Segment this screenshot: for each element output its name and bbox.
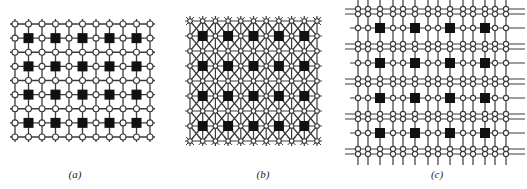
- node-circle: [460, 46, 465, 51]
- node-circle: [355, 60, 360, 65]
- node-circle: [470, 60, 475, 65]
- node-circle: [66, 21, 72, 27]
- node-circle: [425, 46, 430, 51]
- node-circle: [147, 134, 153, 140]
- node-circle: [435, 146, 440, 151]
- node-circle: [365, 46, 370, 51]
- mesh-diagram-b: [170, 0, 340, 189]
- node-circle: [213, 49, 218, 54]
- processing-element: [445, 23, 455, 33]
- node-circle: [470, 6, 475, 11]
- node-circle: [435, 95, 440, 100]
- node-circle: [425, 116, 430, 121]
- node-circle: [188, 94, 193, 99]
- node-circle: [93, 63, 99, 69]
- node-circle: [365, 146, 370, 151]
- processing-element: [299, 121, 309, 131]
- node-circle: [315, 34, 320, 39]
- node-circle: [264, 19, 269, 24]
- node-circle: [315, 49, 320, 54]
- node-circle: [470, 11, 475, 16]
- processing-element: [223, 31, 233, 41]
- node-circle: [188, 49, 193, 54]
- node-circle: [435, 81, 440, 86]
- node-circle: [251, 139, 256, 144]
- node-circle: [120, 120, 126, 126]
- node-circle: [264, 124, 269, 129]
- node-circle: [460, 6, 465, 11]
- processing-element: [375, 58, 385, 68]
- node-circle: [188, 79, 193, 84]
- node-circle: [39, 120, 45, 126]
- node-circle: [213, 34, 218, 39]
- node-circle: [213, 124, 218, 129]
- node-circle: [435, 6, 440, 11]
- node-circle: [12, 21, 18, 27]
- processing-element: [299, 61, 309, 71]
- node-circle: [200, 49, 205, 54]
- node-circle: [447, 111, 452, 116]
- node-circle: [239, 49, 244, 54]
- node-circle: [239, 139, 244, 144]
- node-circle: [400, 60, 405, 65]
- node-circle: [377, 146, 382, 151]
- node-circle: [355, 76, 360, 81]
- node-circle: [470, 25, 475, 30]
- node-circle: [120, 49, 126, 55]
- node-circle: [355, 151, 360, 156]
- node-circle: [53, 21, 59, 27]
- node-circle: [482, 111, 487, 116]
- node-circle: [302, 109, 307, 114]
- node-circle: [435, 116, 440, 121]
- node-circle: [482, 151, 487, 156]
- node-circle: [460, 25, 465, 30]
- node-circle: [200, 109, 205, 114]
- node-circle: [365, 6, 370, 11]
- processing-element: [198, 31, 208, 41]
- node-circle: [460, 11, 465, 16]
- node-circle: [365, 95, 370, 100]
- node-circle: [435, 60, 440, 65]
- node-circle: [66, 35, 72, 41]
- node-circle: [425, 60, 430, 65]
- node-circle: [39, 106, 45, 112]
- processing-element: [132, 118, 142, 128]
- node-circle: [390, 46, 395, 51]
- node-circle: [412, 41, 417, 46]
- processing-element: [410, 128, 420, 138]
- node-circle: [470, 116, 475, 121]
- processing-element: [78, 90, 88, 100]
- node-circle: [412, 146, 417, 151]
- node-circle: [213, 94, 218, 99]
- node-circle: [503, 81, 508, 86]
- node-circle: [365, 11, 370, 16]
- node-circle: [492, 151, 497, 156]
- node-circle: [435, 76, 440, 81]
- node-circle: [226, 49, 231, 54]
- node-circle: [355, 130, 360, 135]
- node-circle: [482, 116, 487, 121]
- node-circle: [200, 139, 205, 144]
- node-circle: [26, 78, 32, 84]
- node-circle: [26, 134, 32, 140]
- node-circle: [188, 64, 193, 69]
- processing-element: [249, 121, 259, 131]
- node-circle: [264, 79, 269, 84]
- node-circle: [482, 11, 487, 16]
- processing-element: [78, 118, 88, 128]
- processing-element: [223, 121, 233, 131]
- node-circle: [503, 111, 508, 116]
- node-circle: [492, 116, 497, 121]
- mesh-diagram-a: [0, 0, 170, 189]
- node-circle: [12, 78, 18, 84]
- node-circle: [147, 35, 153, 41]
- node-circle: [239, 34, 244, 39]
- node-circle: [470, 146, 475, 151]
- node-circle: [390, 11, 395, 16]
- node-circle: [390, 151, 395, 156]
- node-circle: [435, 41, 440, 46]
- node-circle: [147, 92, 153, 98]
- processing-element: [223, 61, 233, 71]
- processing-element: [480, 23, 490, 33]
- node-circle: [470, 95, 475, 100]
